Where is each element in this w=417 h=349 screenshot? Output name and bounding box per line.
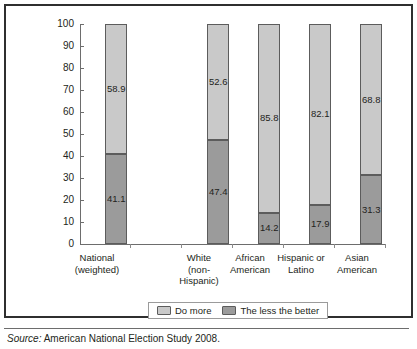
y-tick-mark bbox=[80, 24, 84, 25]
chart-panel: 100 90 80 70 60 50 40 30 20 10 0 58.9 bbox=[4, 4, 413, 318]
bar-segment-less-better[interactable]: 47.4 bbox=[207, 140, 229, 244]
source-text: American National Election Study 2008. bbox=[44, 333, 220, 344]
bar-value-less-better: 31.3 bbox=[362, 205, 381, 215]
y-tick-mark bbox=[80, 222, 84, 223]
figure: 100 90 80 70 60 50 40 30 20 10 0 58.9 bbox=[0, 0, 417, 349]
bar-value-do-more: 82.1 bbox=[311, 110, 330, 120]
y-tick-mark bbox=[80, 90, 84, 91]
x-label-line: American bbox=[326, 264, 388, 276]
y-tick-mark bbox=[80, 200, 84, 201]
source-note: Source: American National Election Study… bbox=[7, 334, 220, 344]
bar-segment-do-more[interactable]: 82.1 bbox=[309, 24, 331, 205]
x-label-line: Asian bbox=[326, 252, 388, 264]
x-tick-mark bbox=[283, 244, 284, 248]
bar-segment-less-better[interactable]: 41.1 bbox=[105, 154, 127, 244]
x-label-asian-american: Asian American bbox=[326, 252, 388, 275]
y-tick-0: 0 bbox=[68, 239, 80, 249]
x-tick-mark bbox=[130, 244, 131, 248]
y-tick-90: 90 bbox=[63, 41, 80, 51]
bar-segment-do-more[interactable]: 52.6 bbox=[207, 24, 229, 140]
x-tick-mark bbox=[334, 244, 335, 248]
bar-african-american[interactable]: 85.8 14.2 bbox=[258, 24, 280, 244]
x-tick-mark bbox=[232, 244, 233, 248]
bar-value-less-better: 41.1 bbox=[107, 194, 126, 204]
source-label: Source: bbox=[7, 333, 41, 344]
x-tick-mark bbox=[385, 244, 386, 248]
source-divider bbox=[4, 328, 409, 329]
y-tick-50: 50 bbox=[63, 129, 80, 139]
legend-swatch-do-more-icon bbox=[157, 306, 171, 315]
bar-hispanic-or-latino[interactable]: 82.1 17.9 bbox=[309, 24, 331, 244]
plot-area: 100 90 80 70 60 50 40 30 20 10 0 58.9 bbox=[80, 24, 385, 244]
bar-value-do-more: 68.8 bbox=[362, 95, 381, 105]
bar-value-do-more: 58.9 bbox=[107, 84, 126, 94]
bar-value-less-better: 47.4 bbox=[209, 187, 228, 197]
y-tick-30: 30 bbox=[63, 173, 80, 183]
x-label-line: (weighted) bbox=[65, 264, 129, 276]
x-label-line: Hispanic) bbox=[169, 275, 229, 287]
y-tick-70: 70 bbox=[63, 85, 80, 95]
bar-value-less-better: 17.9 bbox=[311, 220, 330, 230]
y-tick-60: 60 bbox=[63, 107, 80, 117]
y-tick-mark bbox=[80, 178, 84, 179]
y-tick-mark bbox=[80, 112, 84, 113]
y-tick-mark bbox=[80, 156, 84, 157]
bar-value-do-more: 52.6 bbox=[209, 77, 228, 87]
y-tick-mark bbox=[80, 46, 84, 47]
bar-segment-do-more[interactable]: 68.8 bbox=[360, 24, 382, 175]
x-label-line: Hispanic or bbox=[268, 252, 334, 264]
bar-white-non-hispanic[interactable]: 52.6 47.4 bbox=[207, 24, 229, 244]
chart-legend: Do more The less the better bbox=[148, 302, 328, 319]
y-tick-40: 40 bbox=[63, 151, 80, 161]
legend-label-less-better: The less the better bbox=[240, 306, 319, 316]
legend-label-do-more: Do more bbox=[175, 306, 211, 316]
y-tick-mark bbox=[80, 68, 84, 69]
y-tick-mark bbox=[80, 134, 84, 135]
legend-item-do-more[interactable]: Do more bbox=[157, 306, 211, 316]
bar-asian-american[interactable]: 68.8 31.3 bbox=[360, 24, 382, 244]
bar-value-do-more: 85.8 bbox=[260, 114, 279, 124]
legend-item-less-better[interactable]: The less the better bbox=[222, 306, 319, 316]
x-label-line: National bbox=[65, 252, 129, 264]
bar-segment-do-more[interactable]: 85.8 bbox=[258, 24, 280, 213]
bar-segment-less-better[interactable]: 17.9 bbox=[309, 205, 331, 244]
x-axis-line bbox=[80, 244, 386, 245]
bar-segment-less-better[interactable]: 31.3 bbox=[360, 175, 382, 244]
y-tick-20: 20 bbox=[63, 195, 80, 205]
x-label-national-weighted: National (weighted) bbox=[65, 252, 129, 275]
bar-segment-do-more[interactable]: 58.9 bbox=[105, 24, 127, 154]
y-tick-10: 10 bbox=[63, 217, 80, 227]
x-tick-mark bbox=[181, 244, 182, 248]
y-tick-100: 100 bbox=[57, 19, 80, 29]
bar-national-weighted[interactable]: 58.9 41.1 bbox=[105, 24, 127, 244]
x-label-hispanic-or-latino: Hispanic or Latino bbox=[268, 252, 334, 275]
bar-value-less-better: 14.2 bbox=[260, 224, 279, 234]
y-tick-80: 80 bbox=[63, 63, 80, 73]
x-label-line: Latino bbox=[268, 264, 334, 276]
legend-swatch-less-better-icon bbox=[222, 306, 236, 315]
bar-segment-less-better[interactable]: 14.2 bbox=[258, 213, 280, 244]
y-tick-mark bbox=[80, 244, 84, 245]
